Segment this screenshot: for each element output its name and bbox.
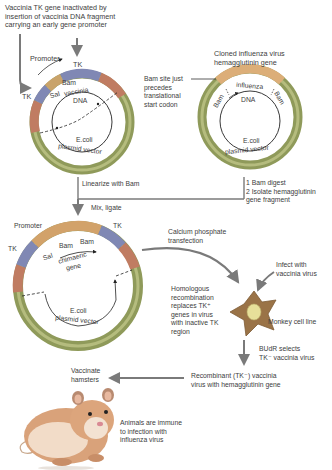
tk-left-label-chimeric: TK — [8, 245, 17, 254]
note-line: precedes — [144, 84, 183, 93]
step-line: Calcium phosphate — [168, 228, 226, 237]
note-line: recombination — [171, 294, 218, 303]
diagram-artwork — [0, 0, 332, 470]
vaccinate-step: Vaccinate hamsters — [71, 367, 100, 384]
result-line: Animals are immune — [120, 419, 182, 428]
digest-steps: 1 Bam digest 2 Isolate hemagglutinin gen… — [246, 179, 316, 205]
bam-right-label-chimeric: Bam — [80, 238, 94, 247]
step-line: vaccinia virus — [276, 270, 317, 279]
transfection-arrow — [142, 248, 238, 282]
chimeric-plasmid — [18, 226, 138, 346]
step-line: gene fragment — [246, 196, 316, 205]
result-line: influenza virus — [120, 436, 182, 445]
note-line: Homologous — [171, 285, 218, 294]
linearize-step: Linearize with Bam — [82, 180, 139, 189]
tk-right-label-chimeric: TK — [113, 222, 122, 231]
ecoli-label: E.coli — [76, 136, 93, 145]
tk-top-label: TK — [73, 61, 82, 70]
note-line: replaces TK⁺ — [171, 302, 218, 311]
note-line: genes in virus — [171, 311, 218, 320]
tk-left-label: TK — [22, 93, 31, 102]
step-line: 1 Bam digest — [246, 179, 316, 188]
infect-step: Infect with vaccinia virus — [276, 261, 317, 278]
step-line: Infect with — [276, 261, 317, 270]
recombination-note: Homologous recombination replaces TK⁺ ge… — [171, 285, 218, 337]
monkey-cell-label: Monkey cell line — [268, 318, 316, 327]
promoter-label-chimeric: Promoter — [14, 222, 42, 231]
monkey-cell — [230, 291, 276, 336]
transfection-step: Calcium phosphate transfection — [168, 228, 226, 245]
dna-label: DNA — [73, 97, 87, 106]
result-line: to infection with — [120, 428, 182, 437]
step-line: 2 Isolate hemagglutinin — [246, 188, 316, 197]
note-line: with inactive TK — [171, 319, 218, 328]
promoter-label: Promoter — [30, 55, 60, 64]
bam-label: Bam — [62, 79, 76, 88]
note-line: region — [171, 328, 218, 337]
influenza-dna-label: DNA — [241, 96, 255, 105]
ecoli-label-chimeric: E.coli — [70, 307, 87, 316]
step-line: TK⁻ vaccinia virus — [259, 354, 314, 363]
step-line: transfection — [168, 237, 226, 246]
arrow-left-tk — [20, 34, 30, 88]
caption-influenza-gene: Cloned influenza virus hemagglutinin gen… — [214, 50, 285, 67]
hamster-illustration — [20, 388, 114, 470]
caption-line: hemagglutinin gene — [214, 59, 285, 68]
budr-step: BUdR selects TK⁻ vaccinia virus — [259, 345, 314, 362]
label-line: Recombinant (TK⁻) vaccinia — [191, 372, 281, 381]
note-line: Bam site just — [144, 75, 183, 84]
note-line: translational — [144, 92, 183, 101]
infect-arrow — [258, 272, 274, 290]
mix-ligate-step: Mix, ligate — [91, 204, 122, 213]
step-line: hamsters — [71, 376, 100, 385]
step-line: Vaccinate — [71, 367, 100, 376]
bam-left-label-chimeric: Bam — [59, 242, 73, 251]
recombinant-virus-label: Recombinant (TK⁻) vaccinia virus with he… — [191, 372, 281, 389]
bam-site-note: Bam site just precedes translational sta… — [144, 75, 183, 109]
label-line: virus with hemagglutinin gene — [191, 381, 281, 390]
immune-result: Animals are immune to infection with inf… — [120, 419, 182, 445]
caption-line: carrying an early gene promoter — [5, 21, 115, 30]
step-line: BUdR selects — [259, 345, 314, 354]
caption-tk-inactivated: Vaccinia TK gene inactivated by insertio… — [5, 4, 115, 30]
note-line: start codon — [144, 101, 183, 110]
